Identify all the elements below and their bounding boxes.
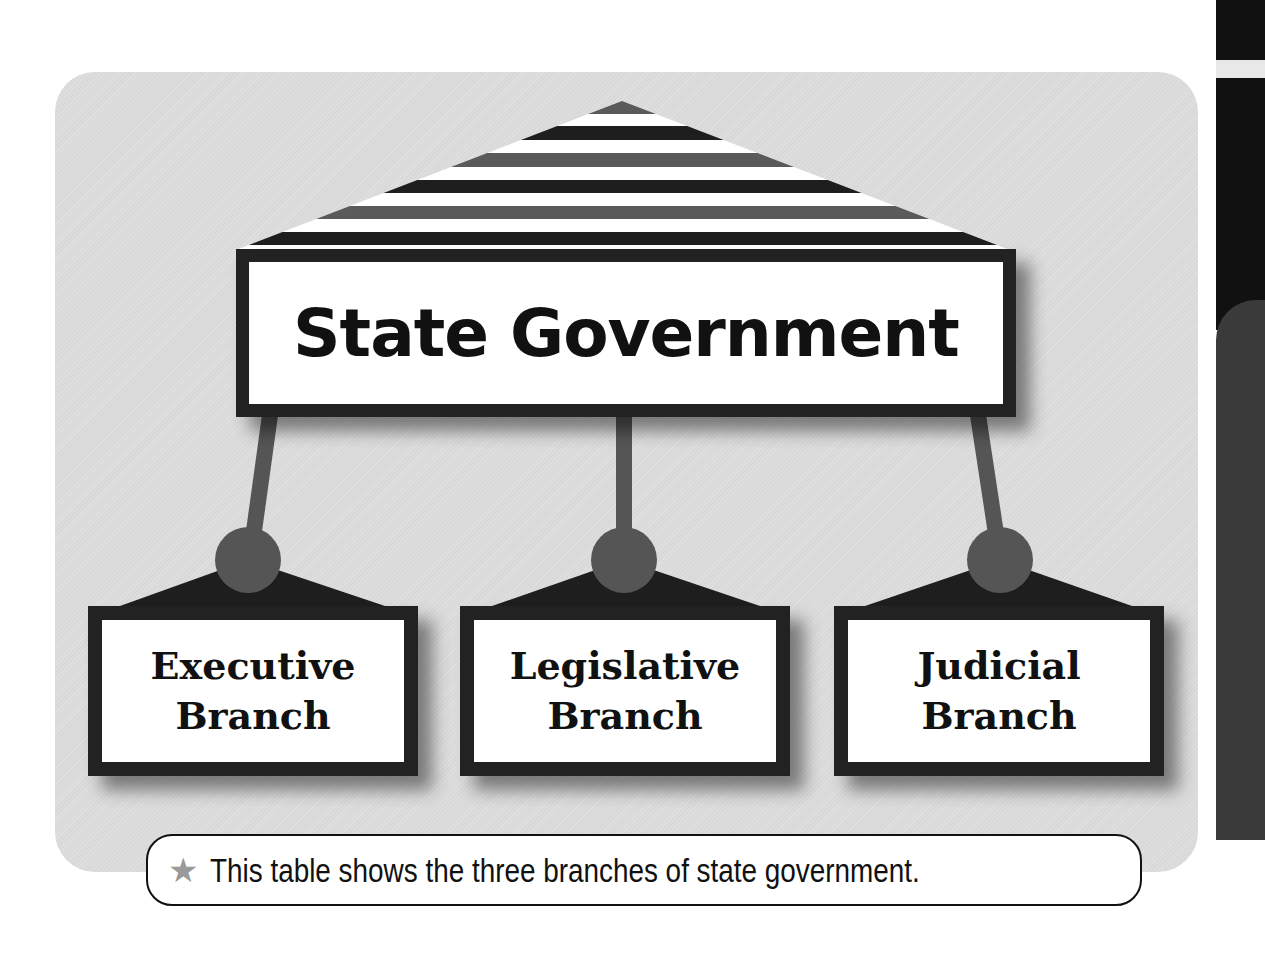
executive-branch-box: Executive Branch xyxy=(88,606,418,776)
knob-legislative xyxy=(591,527,657,593)
branch-label-line2: Branch xyxy=(921,691,1076,741)
striped-roof xyxy=(230,100,1020,255)
branch-label-line1: Executive xyxy=(151,641,356,691)
branch-label-line2: Branch xyxy=(547,691,702,741)
judicial-branch-box: Judicial Branch xyxy=(834,606,1164,776)
star-icon: ★ xyxy=(168,853,198,887)
caption-text: This table shows the three branches of s… xyxy=(210,851,920,890)
branch-label-line1: Judicial xyxy=(917,641,1080,691)
caption-box: ★ This table shows the three branches of… xyxy=(146,834,1142,906)
state-government-box: State Government xyxy=(236,249,1016,417)
branch-label-line1: Legislative xyxy=(510,641,741,691)
diagram-graphics xyxy=(0,0,1265,964)
branch-label-line2: Branch xyxy=(175,691,330,741)
diagram-title: State Government xyxy=(293,295,959,372)
knob-judicial xyxy=(967,527,1033,593)
legislative-branch-box: Legislative Branch xyxy=(460,606,790,776)
knob-executive xyxy=(215,527,281,593)
